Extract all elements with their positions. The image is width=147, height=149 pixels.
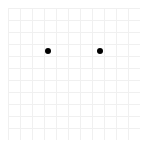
- grid-lines: [8, 8, 140, 140]
- black-dot-icon[interactable]: [97, 48, 103, 54]
- black-dot-icon[interactable]: [45, 48, 51, 54]
- game-board[interactable]: [8, 8, 140, 140]
